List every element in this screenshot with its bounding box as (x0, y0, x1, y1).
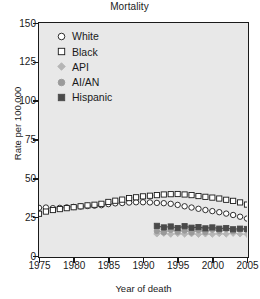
legend-label: AI/AN (72, 77, 99, 88)
filled-diamond-icon (56, 61, 67, 72)
x-tick-mark (73, 258, 75, 263)
legend-label: API (72, 62, 89, 73)
chart-legend: WhiteBlackAPIAI/ANHispanic (56, 29, 146, 105)
legend-label: Hispanic (72, 92, 112, 103)
y-tick-label: 75 (0, 135, 36, 145)
legend-item-hispanic: Hispanic (56, 90, 146, 105)
legend-item-white: White (56, 29, 146, 44)
chart-title: Mortality (0, 1, 259, 12)
open-circle-icon (56, 31, 67, 42)
x-tick-mark (108, 258, 110, 263)
x-tick-mark (143, 258, 145, 263)
filled-square-icon (56, 92, 67, 103)
legend-label: Black (72, 47, 98, 58)
y-tick-label: 150 (0, 19, 36, 29)
legend-item-black: Black (56, 44, 146, 59)
x-axis-label: Year of death (38, 283, 249, 294)
x-tick-label: 2005 (228, 261, 260, 271)
y-tick-label: 50 (0, 174, 36, 184)
legend-item-api: API (56, 59, 146, 74)
open-square-icon (56, 46, 67, 57)
filled-circle-icon (56, 77, 67, 88)
x-tick-mark (39, 258, 41, 263)
y-tick-label: 125 (0, 57, 36, 67)
x-tick-mark (177, 258, 179, 263)
x-tick-mark (247, 258, 249, 263)
legend-item-ai-an: AI/AN (56, 75, 146, 90)
x-tick-mark (212, 258, 214, 263)
y-tick-label: 25 (0, 213, 36, 223)
legend-label: White (72, 31, 99, 42)
mortality-chart-figure: Mortality Rate per 100,000 0255075100125… (0, 0, 259, 299)
y-tick-label: 100 (0, 96, 36, 106)
series-white (39, 200, 247, 222)
